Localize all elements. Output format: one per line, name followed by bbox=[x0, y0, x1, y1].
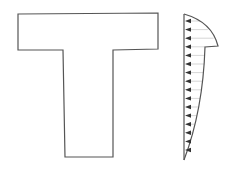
arrow-left-icon bbox=[185, 19, 191, 23]
arrow-left-icon bbox=[185, 62, 191, 66]
arrow-left-icon bbox=[185, 122, 191, 126]
arrow-left-icon bbox=[185, 131, 191, 135]
arrow-left-icon bbox=[185, 96, 191, 100]
stress-arrows bbox=[185, 19, 191, 152]
arrow-left-icon bbox=[185, 70, 191, 74]
diagram-canvas bbox=[0, 0, 227, 170]
arrow-left-icon bbox=[185, 88, 191, 92]
t-beam-section bbox=[18, 13, 158, 157]
arrow-left-icon bbox=[185, 79, 191, 83]
stress-hatch-lines bbox=[186, 21, 214, 150]
arrow-left-icon bbox=[185, 45, 191, 49]
shear-stress-diagram bbox=[184, 14, 218, 160]
stress-profile-outline bbox=[184, 14, 218, 160]
arrow-left-icon bbox=[185, 53, 191, 57]
arrow-left-icon bbox=[185, 36, 191, 40]
arrow-left-icon bbox=[185, 113, 191, 117]
arrow-left-icon bbox=[185, 27, 191, 31]
arrow-left-icon bbox=[185, 139, 191, 143]
arrow-left-icon bbox=[185, 105, 191, 109]
